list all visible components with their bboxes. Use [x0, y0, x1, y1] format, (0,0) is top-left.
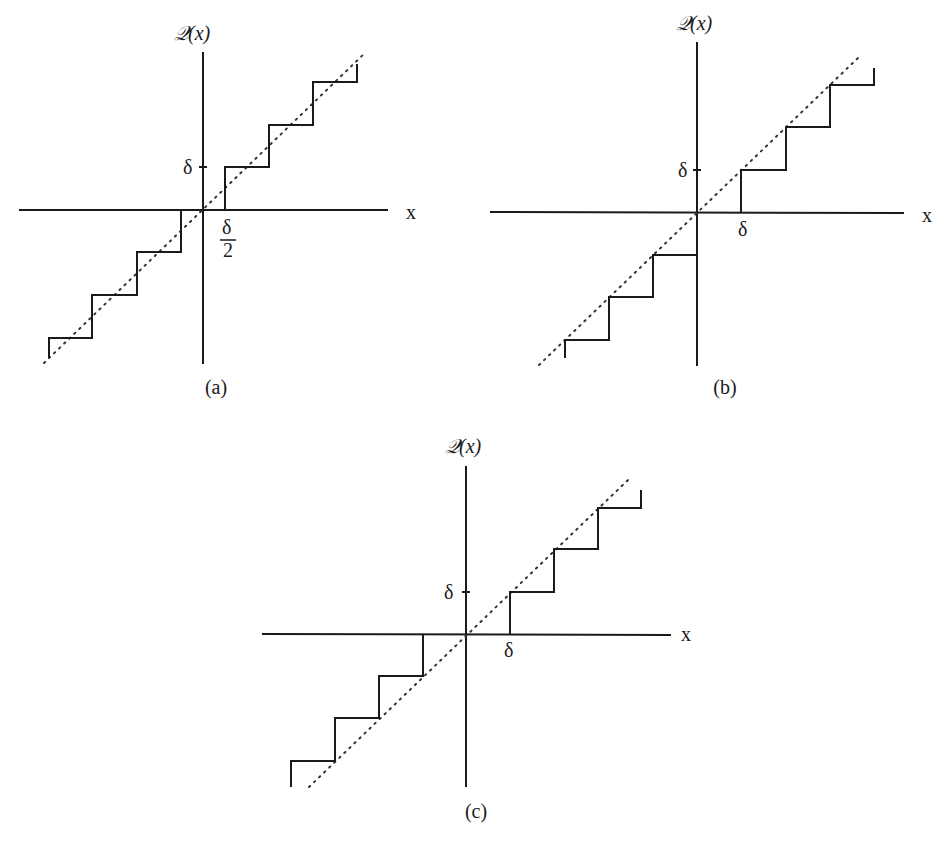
- panel-b: 𝒬(x) x δ δ (b): [490, 12, 932, 399]
- x-axis-label-c: x: [681, 623, 691, 645]
- staircase-a: [49, 210, 181, 358]
- x-tick-label-a-den: 2: [223, 239, 233, 261]
- staircase-a-right: [225, 64, 357, 210]
- y-tick-label-c: δ: [444, 581, 453, 603]
- staircase-b-left: [565, 255, 697, 358]
- staircase-b-right: [741, 68, 874, 212]
- x-axis-label-a: x: [406, 201, 416, 223]
- y-axis-label-b: 𝒬(x): [676, 12, 713, 35]
- y-axis-label-a: 𝒬(x): [174, 22, 211, 45]
- x-tick-label-c: δ: [504, 639, 513, 661]
- y-axis-label-c: 𝒬(x): [445, 435, 482, 458]
- quantizer-figure: 𝒬(x) x δ δ 2 (a) 𝒬(x) x δ δ (b) 𝒬(x) x δ…: [0, 0, 951, 846]
- panel-a: 𝒬(x) x δ δ 2 (a): [19, 22, 416, 399]
- y-tick-label-b: δ: [678, 159, 687, 181]
- x-tick-label-a-num: δ: [222, 216, 231, 238]
- staircase-c-right: [510, 490, 641, 634]
- x-axis-label-b: x: [922, 204, 932, 226]
- caption-c: (c): [465, 800, 487, 823]
- caption-b: (b): [713, 376, 736, 399]
- staircase-c-left: [291, 634, 423, 787]
- x-tick-label-b: δ: [738, 218, 747, 240]
- caption-a: (a): [205, 376, 227, 399]
- identity-line-b: [539, 56, 860, 365]
- panel-c: 𝒬(x) x δ δ (c): [262, 435, 691, 823]
- y-tick-label-a: δ: [183, 156, 192, 178]
